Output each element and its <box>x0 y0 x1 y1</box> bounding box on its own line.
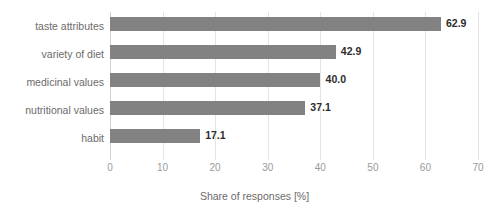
bar-row: 40.0 <box>110 68 478 96</box>
category-label-habit: habit <box>0 124 104 152</box>
bar-taste-attributes <box>110 17 441 31</box>
bar-value-nutritional-values: 37.1 <box>310 99 330 116</box>
bar-variety-of-diet <box>110 45 336 59</box>
category-label-medicinal-values: medicinal values <box>0 68 104 96</box>
value-axis: 0 10 20 30 40 50 60 70 <box>110 160 478 180</box>
bar-medicinal-values <box>110 73 320 87</box>
category-label-variety-of-diet: variety of diet <box>0 40 104 68</box>
bar-row: 37.1 <box>110 96 478 124</box>
xtick-label-0: 0 <box>107 162 113 173</box>
gridline-70 <box>478 12 479 160</box>
xtick-label-70: 70 <box>472 162 483 173</box>
x-axis-title-text: Share of responses [%] <box>200 190 309 202</box>
bar-value-medicinal-values: 40.0 <box>326 71 346 88</box>
bar-value-habit: 17.1 <box>205 127 225 144</box>
category-label-nutritional-values: nutritional values <box>0 96 104 124</box>
xtick-label-10: 10 <box>157 162 168 173</box>
xtick-label-40: 40 <box>315 162 326 173</box>
x-axis-title: Share of responses [%] <box>0 190 503 202</box>
bar-nutritional-values <box>110 101 305 115</box>
bar-row: 17.1 <box>110 124 478 152</box>
xtick-label-30: 30 <box>262 162 273 173</box>
bar-value-taste-attributes: 62.9 <box>446 15 466 32</box>
bar-chart: taste attributes variety of diet medicin… <box>0 0 503 218</box>
plot-area: 62.9 42.9 40.0 37.1 17.1 <box>110 12 478 160</box>
category-axis-labels: taste attributes variety of diet medicin… <box>0 12 104 160</box>
category-label-taste-attributes: taste attributes <box>0 12 104 40</box>
bar-row: 42.9 <box>110 40 478 68</box>
xtick-label-60: 60 <box>420 162 431 173</box>
bar-row: 62.9 <box>110 12 478 40</box>
xtick-label-20: 20 <box>210 162 221 173</box>
xtick-label-50: 50 <box>367 162 378 173</box>
bar-value-variety-of-diet: 42.9 <box>341 43 361 60</box>
bar-habit <box>110 129 200 143</box>
